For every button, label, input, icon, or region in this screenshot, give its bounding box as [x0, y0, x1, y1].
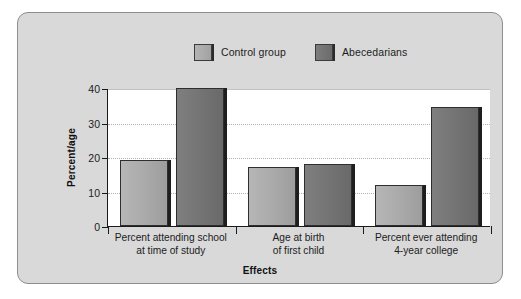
y-axis-tick — [102, 158, 108, 159]
y-axis-tick — [102, 124, 108, 125]
bar-abecedarians-0 — [176, 88, 224, 226]
plot-area: 010203040 — [107, 89, 490, 227]
x-axis-group-label-0-line1: Percent attending school — [115, 232, 227, 243]
chart-legend: Control group Abecedarians — [18, 41, 502, 65]
y-axis-title: Percent/age — [63, 117, 79, 197]
y-axis-tick — [102, 89, 108, 90]
x-axis-title: Effects — [18, 265, 502, 276]
y-axis-tick-label: 20 — [88, 152, 100, 164]
x-axis-group-label-1-line1: Age at birth — [272, 232, 324, 243]
gridline — [108, 89, 490, 90]
bar-abecedarians-2 — [431, 107, 479, 226]
x-axis-group-label-2-line2: 4-year college — [347, 245, 505, 258]
x-axis-group-label-2-line1: Percent ever attending — [375, 232, 478, 243]
x-axis-group-label-2: Percent ever attending 4-year college — [347, 232, 505, 257]
legend-swatch-abecedarian-icon — [315, 44, 333, 61]
y-axis-tick — [102, 193, 108, 194]
bar-chart-figure: Control group Abecedarians Percent/age 0… — [0, 0, 521, 299]
legend-label-control-group: Control group — [221, 46, 286, 58]
bar-control-group-1 — [248, 167, 296, 226]
legend-swatch-control-icon — [194, 44, 212, 61]
legend-item-control-group: Control group — [194, 41, 286, 63]
bar-control-group-0 — [120, 160, 168, 226]
bar-abecedarians-1 — [304, 164, 352, 226]
y-axis-title-text: Percent/age — [66, 128, 77, 187]
legend-label-abecedarians: Abecedarians — [342, 46, 407, 58]
chart-panel: Control group Abecedarians Percent/age 0… — [17, 12, 503, 284]
y-axis-tick-label: 40 — [88, 83, 100, 95]
y-axis-tick-label: 10 — [88, 187, 100, 199]
legend-item-abecedarians: Abecedarians — [315, 41, 407, 63]
y-axis-tick-label: 30 — [88, 118, 100, 130]
bar-control-group-2 — [375, 185, 423, 226]
